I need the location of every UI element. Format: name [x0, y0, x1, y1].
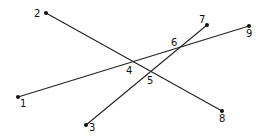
- point-label-1: 1: [20, 98, 26, 109]
- diagram-canvas: 123456789: [0, 0, 263, 139]
- line-group: [18, 13, 249, 125]
- point-label-4: 4: [126, 65, 132, 76]
- point-label-9: 9: [246, 28, 252, 39]
- point-label-7: 7: [199, 14, 205, 25]
- point-label-3: 3: [89, 122, 95, 133]
- point-dot-3: [84, 123, 88, 127]
- line-2-8: [46, 13, 222, 111]
- point-label-5: 5: [147, 75, 153, 86]
- point-label-2: 2: [34, 8, 40, 19]
- point-label-8: 8: [219, 113, 225, 124]
- point-dot-2: [44, 11, 48, 15]
- endpoint-group: [16, 11, 251, 127]
- point-label-6: 6: [171, 37, 177, 48]
- label-group: 123456789: [20, 8, 252, 133]
- point-dot-7: [205, 23, 209, 27]
